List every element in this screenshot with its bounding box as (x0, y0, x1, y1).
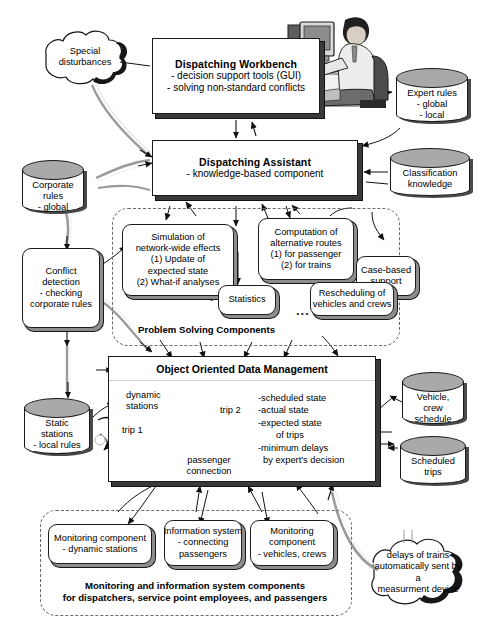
psc-line: Simulation of (151, 232, 205, 243)
monitoring-line: - vehicles, crews (258, 549, 327, 560)
psc-statistics-box[interactable]: Statistics (218, 285, 276, 315)
db-classification-knowledge[interactable]: Classification knowledge (390, 148, 470, 196)
conflict-line: - checking (40, 288, 82, 299)
oodm-dynamic-stations-label: dynamic stations (126, 390, 161, 413)
label-line: dynamic (126, 390, 161, 401)
psc-line: (2) What-if analyses (137, 277, 220, 288)
db-line: rules (22, 191, 84, 202)
state-line: -minimum delays (258, 442, 344, 454)
db-line: - local (396, 110, 468, 121)
architecture-diagram: Special disturbances delays of trains au… (0, 0, 484, 633)
psc-line: expected state (148, 266, 208, 277)
state-line: -scheduled state (258, 392, 344, 404)
monitoring-vehicles-crews-box[interactable]: Monitoring component - vehicles, crews (250, 520, 334, 566)
psc-rescheduling-box[interactable]: Rescheduling of vehicles and crews (310, 282, 394, 316)
psc-line: Rescheduling of (319, 288, 386, 299)
psc-line: (2) for trains (281, 260, 331, 271)
cloud-line: Special (46, 46, 124, 57)
monitoring-line: passengers (179, 549, 227, 560)
db-line: Vehicle, (402, 392, 464, 403)
state-line: of trips (258, 429, 344, 441)
workbench-line: - solving non-standard conflicts (167, 82, 305, 95)
label-line: stations (126, 401, 161, 412)
oodm-state-list: -scheduled state -actual state -expected… (258, 392, 344, 466)
cloud-line: disturbances (46, 57, 124, 68)
monitoring-label: Monitoring and information system compon… (40, 580, 350, 604)
db-line: - global (396, 99, 468, 110)
db-line: stations (24, 429, 90, 440)
oodm-divider (109, 380, 375, 381)
state-line: -expected state (258, 417, 344, 429)
monitoring-line: Monitoring component (54, 533, 146, 544)
cloud-line: delays of trains (372, 550, 464, 561)
oodm-trip1-label: trip 1 (122, 425, 143, 436)
dispatching-workbench-box[interactable]: Dispatching Workbench - decision support… (152, 38, 320, 114)
cloud-special-disturbances: Special disturbances (46, 30, 124, 86)
psc-line: alternative routes (270, 238, 341, 249)
cylinder-top (390, 148, 470, 168)
label-line: passenger (165, 455, 253, 466)
monitoring-line: component (269, 537, 315, 548)
monitoring-line: Monitoring (270, 526, 313, 537)
cylinder-top (400, 436, 466, 456)
monitoring-label-line: Monitoring and information system compon… (40, 580, 350, 592)
db-line: Classification (390, 168, 470, 179)
cloud-delays-measurement: delays of trains automatically sent by a… (372, 538, 464, 604)
conflict-line: corporate rules (30, 299, 92, 310)
assistant-title: Dispatching Assistant (199, 156, 311, 168)
psc-line: Statistics (228, 294, 265, 305)
assistant-line: - knowledge-based component (187, 168, 324, 181)
state-line: by expert's decision (258, 454, 344, 466)
ellipsis-label: ... (296, 303, 310, 318)
db-expert-rules[interactable]: Expert rules - global - local (396, 68, 468, 122)
psc-line: network-wide effects (136, 243, 221, 254)
monitoring-line: - dynamic stations (63, 544, 138, 555)
conflict-detection-box[interactable]: Conflict detection - checking corporate … (22, 248, 100, 328)
db-static-stations[interactable]: Static stations - local rules (24, 398, 90, 454)
db-line: Expert rules (396, 88, 468, 99)
psc-line: Computation of (274, 227, 337, 238)
workbench-line: - decision support tools (GUI) (171, 70, 301, 83)
db-line: trips (400, 467, 466, 478)
cloud-line: measurment device (372, 584, 464, 595)
db-line: - global (22, 202, 84, 213)
cylinder-top (22, 160, 84, 180)
state-line: -actual state (258, 404, 344, 416)
db-line: crew (402, 403, 464, 414)
problem-solving-label: Problem Solving Components (138, 324, 275, 335)
db-corporate-rules[interactable]: Corporate rules - global (22, 160, 84, 212)
db-line: Static (24, 418, 90, 429)
db-scheduled-trips[interactable]: Scheduled trips (400, 436, 466, 484)
monitoring-line: - connecting (178, 537, 229, 548)
psc-line: (1) for passenger (271, 249, 342, 260)
cloud-line: automatically sent by a (372, 561, 464, 584)
dispatching-assistant-box[interactable]: Dispatching Assistant - knowledge-based … (152, 140, 358, 196)
monitoring-line: Information system (164, 526, 243, 537)
oodm-trip2-label: trip 2 (220, 405, 241, 416)
oodm-passenger-connection-label: passenger connection (165, 455, 253, 478)
psc-line: vehicles and crews (313, 299, 392, 310)
psc-computation-routes-box[interactable]: Computation of alternative routes (1) fo… (258, 218, 354, 280)
db-line: Corporate (22, 180, 84, 191)
information-system-box[interactable]: Information system - connecting passenge… (164, 520, 242, 566)
psc-line: Case-based (361, 265, 411, 276)
psc-line: (1) Update of (151, 254, 205, 265)
monitoring-dynamic-stations-box[interactable]: Monitoring component - dynamic stations (48, 524, 152, 564)
conflict-line: Conflict (45, 266, 76, 277)
db-line: knowledge (390, 179, 470, 190)
cylinder-top (24, 398, 90, 418)
db-vehicle-crew-schedule[interactable]: Vehicle, crew schedule (402, 372, 464, 424)
cylinder-top (396, 68, 468, 88)
conflict-line: detection (42, 277, 80, 288)
db-line: schedule (402, 414, 464, 425)
cylinder-top (402, 372, 464, 392)
db-line: Scheduled (400, 456, 466, 467)
db-line: - local rules (24, 440, 90, 451)
label-line: connection (165, 466, 253, 477)
monitoring-label-line: for dispatchers, service point employees… (40, 592, 350, 604)
oodm-title: Object Oriented Data Management (109, 357, 375, 375)
workbench-title: Dispatching Workbench (175, 58, 297, 70)
psc-simulation-box[interactable]: Simulation of network-wide effects (1) U… (122, 224, 234, 296)
